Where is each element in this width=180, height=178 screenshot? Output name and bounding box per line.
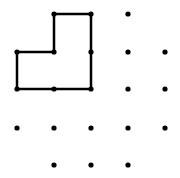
grid-dot	[125, 11, 130, 16]
grid-dot	[51, 125, 56, 130]
grid-dot	[125, 125, 130, 130]
grid-dot	[14, 125, 19, 130]
grid-dot	[14, 86, 19, 91]
grid-dot	[51, 86, 56, 91]
grid-dot	[125, 49, 130, 54]
grid-dot	[88, 162, 93, 167]
grid-dot	[125, 86, 130, 91]
grid-dot	[88, 11, 93, 16]
grid-dot	[88, 49, 93, 54]
grid-dot	[162, 49, 167, 54]
grid-dot	[88, 125, 93, 130]
grid-dot	[162, 86, 167, 91]
grid-dot	[51, 11, 56, 16]
grid-dot	[51, 162, 56, 167]
grid-dot	[125, 162, 130, 167]
grid-dot	[88, 86, 93, 91]
dot-grid-diagram	[0, 0, 180, 178]
grid-dot	[162, 125, 167, 130]
grid-dot	[14, 49, 19, 54]
grid-dot	[51, 49, 56, 54]
